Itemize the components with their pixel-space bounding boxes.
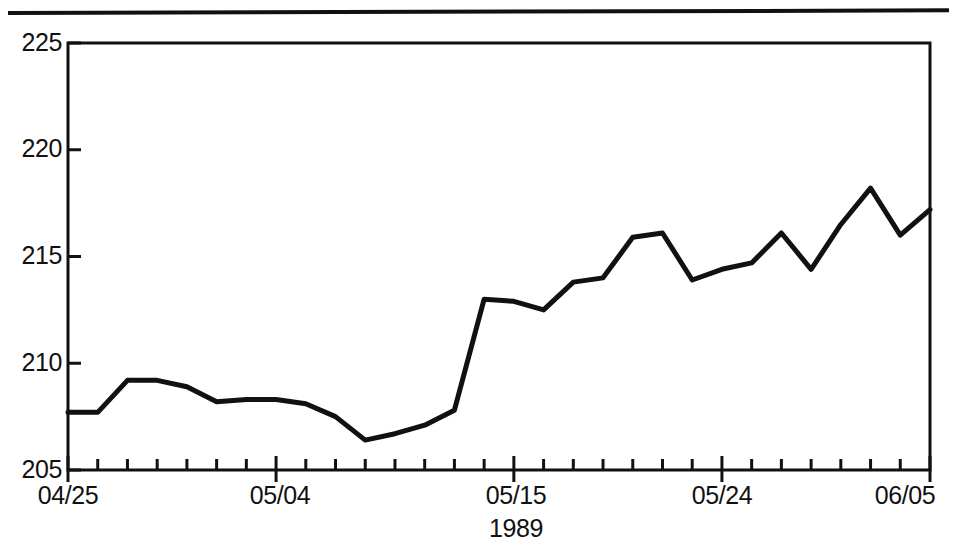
y-axis-ticks xyxy=(68,43,81,470)
x-axis-title: 1989 xyxy=(456,514,576,543)
plot-area xyxy=(0,0,957,559)
y-tick-label-205: 205 xyxy=(6,455,62,484)
y-tick-label-210: 210 xyxy=(6,348,62,377)
x-tick-label-0605: 06/05 xyxy=(845,481,957,510)
y-tick-label-220: 220 xyxy=(6,134,62,163)
data-series-line xyxy=(68,188,930,440)
y-tick-label-225: 225 xyxy=(6,28,62,57)
x-tick-label-0524: 05/24 xyxy=(662,481,782,510)
x-tick-label-0504: 05/04 xyxy=(220,481,340,510)
y-tick-label-215: 215 xyxy=(6,241,62,270)
value-line xyxy=(68,188,930,440)
x-tick-label-0515: 05/15 xyxy=(456,481,576,510)
x-tick-label-0425: 04/25 xyxy=(8,481,128,510)
line-chart-figure: 205 210 215 220 225 04/25 05/04 05/15 05… xyxy=(0,0,957,559)
